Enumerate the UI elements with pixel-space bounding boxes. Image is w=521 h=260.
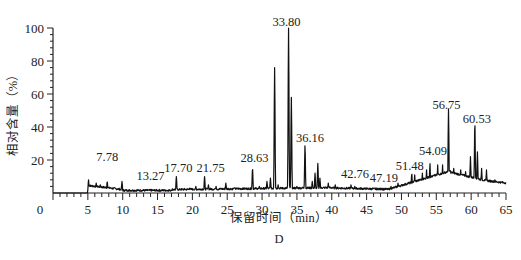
peak-label: 54.09 [419,144,447,158]
x-tick-label: 20 [186,202,199,217]
x-tick-label: 55 [430,202,443,217]
peak-label: 28.63 [240,151,268,165]
x-origin-label: 0 [37,202,44,217]
y-tick-label: 80 [31,54,44,69]
peak-label: 56.75 [432,98,460,112]
peak-label: 47.19 [370,171,398,185]
x-tick-label: 60 [465,202,478,217]
peak-label: 21.75 [197,161,225,175]
x-tick-label: 65 [500,202,513,217]
y-tick-label: 20 [31,153,44,168]
peak-labels: 7.7813.2717.7021.7528.6333.8036.1642.764… [96,15,491,185]
y-tick-label: 100 [25,21,45,36]
y-axis-title: 相对含量（%） [5,68,20,156]
y-tick-label: 60 [31,87,44,102]
peak-label: 33.80 [272,15,300,29]
x-tick-label: 5 [85,202,92,217]
peak-label: 7.78 [96,150,118,164]
peak-label: 51.48 [396,159,424,173]
x-tick-label: 15 [151,202,164,217]
panel-label: D [274,232,283,246]
peak-label: 36.16 [296,131,324,145]
peak-label: 17.70 [164,161,192,175]
x-tick-label: 50 [395,202,408,217]
y-tick-label: 40 [31,120,44,135]
x-axis-title: 保留时间（min） [230,211,327,225]
peak-label: 60.53 [463,112,491,126]
chromatogram-chart: 20406080100 5101520253035404550556065 7.… [0,0,521,260]
peak-label: 42.76 [341,167,369,181]
y-ticks: 20406080100 [25,21,54,187]
peak-label: 13.27 [136,169,164,183]
x-tick-label: 10 [116,202,129,217]
x-tick-label: 45 [360,202,373,217]
